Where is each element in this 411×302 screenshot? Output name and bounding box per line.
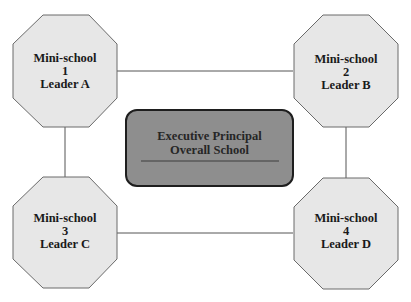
- node-leader: Leader A: [13, 78, 117, 91]
- center-label: Executive Principal Overall School: [126, 129, 293, 157]
- node-label-3: Mini-school 3 Leader C: [13, 212, 117, 251]
- node-leader: Leader B: [294, 79, 398, 92]
- center-title: Executive Principal: [126, 129, 293, 143]
- node-leader: Leader D: [294, 238, 398, 251]
- node-leader: Leader C: [13, 238, 117, 251]
- node-label-1: Mini-school 1 Leader A: [13, 52, 117, 91]
- node-label-4: Mini-school 4 Leader D: [294, 212, 398, 251]
- node-label-2: Mini-school 2 Leader B: [294, 53, 398, 92]
- center-subtitle: Overall School: [126, 143, 293, 157]
